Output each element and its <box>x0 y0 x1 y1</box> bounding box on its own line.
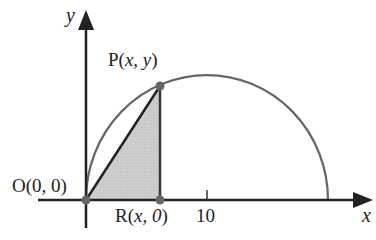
origin-label: O(0, 0) <box>12 175 67 197</box>
point-R-label: R(x, 0) <box>115 205 168 227</box>
point-P <box>156 82 165 91</box>
diagram-canvas: y x 10 O(0, 0) P(x, y) R(x, 0) <box>0 0 376 240</box>
x-axis-label: x <box>361 204 371 226</box>
y-axis-label: y <box>64 4 75 27</box>
x-tick-label-10: 10 <box>196 205 215 226</box>
point-R <box>156 196 165 205</box>
point-O <box>82 196 91 205</box>
y-axis-arrow-icon <box>78 10 94 30</box>
point-P-label: P(x, y) <box>108 49 158 71</box>
